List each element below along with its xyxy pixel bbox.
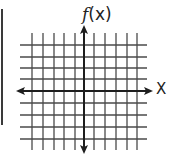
x-axis-label: X (156, 82, 166, 97)
function-argument: (x) (88, 4, 111, 24)
y-axis-label: f(x) (82, 6, 112, 23)
